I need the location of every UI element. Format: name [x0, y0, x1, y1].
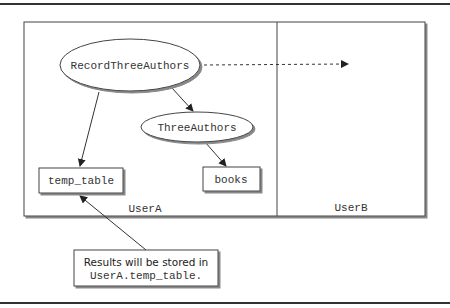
node-label: books: [214, 174, 247, 186]
node-books: books: [203, 167, 260, 191]
top-rule: [0, 3, 450, 5]
bottom-rule: [0, 302, 450, 304]
callout-line-2: UserA.temp_table.: [90, 270, 202, 282]
node-three-authors: ThreeAuthors: [141, 112, 253, 142]
diagram-canvas: UserA UserB RecordThreeAuthors ThreeAuth…: [0, 0, 450, 308]
node-label: RecordThreeAuthors: [71, 60, 190, 72]
node-record-three-authors: RecordThreeAuthors: [60, 39, 200, 91]
zone-label-usera: UserA: [128, 203, 161, 215]
node-label: ThreeAuthors: [157, 122, 236, 134]
zone-label-userb: UserB: [334, 202, 367, 214]
node-label: temp_table: [48, 175, 114, 187]
callout-note: Results will be stored in UserA.temp_tab…: [74, 250, 218, 286]
node-temp-table: temp_table: [39, 168, 123, 193]
callout-line-1: Results will be stored in: [84, 256, 209, 268]
